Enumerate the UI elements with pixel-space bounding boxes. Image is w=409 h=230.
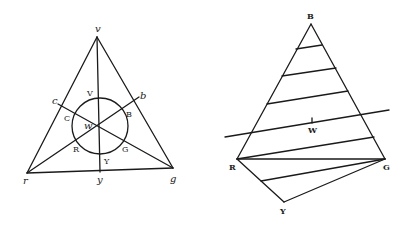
label-c: c — [52, 95, 58, 106]
label-y-foot: y — [96, 174, 103, 185]
hatch-line-2 — [282, 68, 336, 76]
label-r: r — [23, 175, 29, 186]
label-R: R — [73, 145, 80, 154]
hatch-line-3 — [267, 91, 348, 104]
label-w: w — [84, 120, 93, 131]
label-B: B — [126, 110, 132, 119]
side-Y-G — [284, 159, 385, 202]
right-figure: B R G Y W — [225, 11, 390, 216]
label-v: v — [95, 23, 101, 34]
side-v-g — [97, 37, 173, 168]
label-G-right: G — [383, 162, 390, 172]
label-Y: Y — [103, 157, 110, 166]
label-b: b — [140, 90, 146, 101]
hatch-line-4 — [237, 137, 374, 159]
side-v-r — [27, 37, 97, 173]
label-W-right: W — [307, 125, 318, 135]
label-R-right: R — [229, 162, 236, 172]
label-V: V — [86, 89, 93, 98]
label-G: G — [122, 145, 128, 154]
diagram-canvas: v r g y c b w V C B R G Y B — [0, 0, 409, 230]
hatch-line-5 — [261, 159, 385, 181]
label-B-right: B — [307, 11, 314, 21]
label-C: C — [64, 114, 70, 123]
side-B-R — [237, 24, 311, 159]
label-Y-right: Y — [279, 206, 286, 216]
left-figure: v r g y c b w V C B R G Y — [23, 23, 176, 186]
cevian-v-y — [97, 37, 100, 172]
label-g: g — [170, 173, 176, 184]
transversal-line — [225, 110, 389, 137]
side-R-Y — [237, 159, 284, 202]
